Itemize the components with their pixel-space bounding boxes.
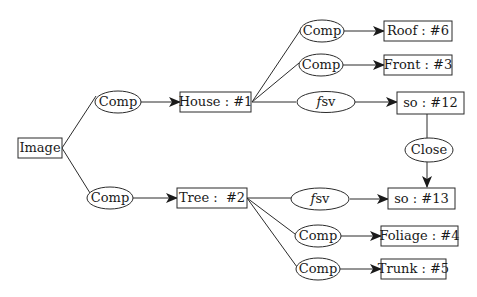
node-tree-label: Tree : #2 bbox=[179, 190, 245, 205]
node-comp-trunk: Comp bbox=[296, 258, 340, 280]
node-so12: so : #12 bbox=[397, 92, 464, 114]
node-fsv-tree: fsv bbox=[291, 188, 349, 210]
node-close-label: Close bbox=[411, 142, 448, 157]
node-comp-front-label: Comp bbox=[302, 57, 340, 72]
scene-graph-diagram: Image Comp Comp House : #1 Tree : #2 Com… bbox=[0, 0, 477, 297]
node-close: Close bbox=[405, 138, 453, 162]
node-comp-foliage-label: Comp bbox=[299, 228, 337, 243]
node-image-label: Image bbox=[19, 140, 61, 155]
edge-tree-comp-foliage bbox=[247, 198, 295, 234]
node-trunk: Trunk : #5 bbox=[378, 259, 449, 279]
node-house-label: House : #1 bbox=[179, 94, 253, 109]
node-comp-roof-label: Comp bbox=[303, 23, 341, 38]
node-comp-tree: Comp bbox=[87, 187, 133, 209]
node-comp-foliage: Comp bbox=[295, 225, 341, 247]
node-foliage: Foliage : #4 bbox=[379, 226, 459, 246]
node-front: Front : #3 bbox=[384, 55, 452, 75]
node-fsv-tree-label: fsv bbox=[310, 191, 330, 206]
node-so13: so : #13 bbox=[388, 188, 455, 209]
edge-image-comp-tree bbox=[62, 148, 90, 193]
node-comp-front: Comp bbox=[299, 54, 343, 76]
node-trunk-label: Trunk : #5 bbox=[378, 261, 449, 276]
node-so12-label: so : #12 bbox=[403, 95, 458, 110]
node-tree: Tree : #2 bbox=[177, 188, 247, 208]
node-foliage-label: Foliage : #4 bbox=[379, 228, 459, 243]
node-comp-house: Comp bbox=[95, 91, 141, 113]
edge-house-comp-front bbox=[252, 63, 299, 102]
node-so13-label: so : #13 bbox=[394, 191, 449, 206]
node-roof-label: Roof : #6 bbox=[387, 23, 449, 38]
edge-house-comp-roof bbox=[252, 29, 301, 102]
edges bbox=[62, 29, 427, 269]
edge-tree-comp-trunk bbox=[247, 198, 297, 267]
node-comp-roof: Comp bbox=[300, 20, 344, 42]
node-image: Image bbox=[18, 138, 62, 158]
node-front-label: Front : #3 bbox=[384, 57, 452, 72]
node-roof: Roof : #6 bbox=[384, 21, 452, 41]
node-comp-house-label: Comp bbox=[99, 94, 137, 109]
node-comp-trunk-label: Comp bbox=[299, 261, 337, 276]
edge-image-comp-house bbox=[62, 96, 96, 148]
node-fsv-house-label: fsv bbox=[316, 94, 336, 109]
node-house: House : #1 bbox=[179, 92, 253, 112]
node-fsv-house: fsv bbox=[297, 92, 355, 113]
node-comp-tree-label: Comp bbox=[91, 190, 129, 205]
